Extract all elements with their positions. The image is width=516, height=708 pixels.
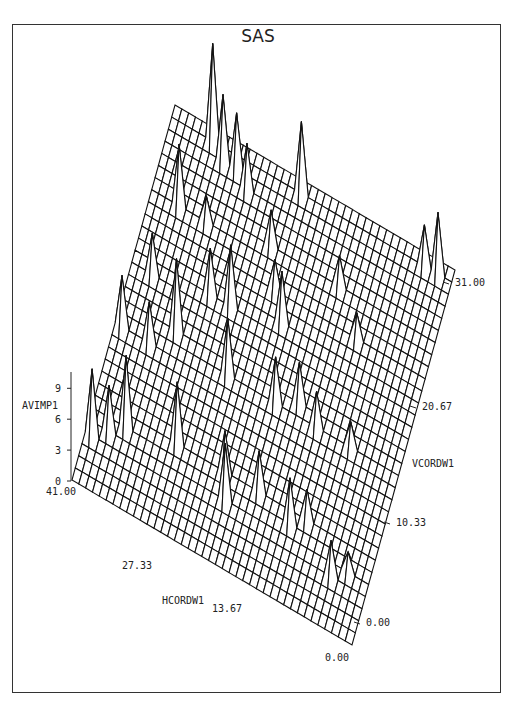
z-tick-label: 3	[55, 445, 61, 456]
z-tick-label: 6	[55, 414, 61, 425]
y-tick-label: 10.33	[396, 517, 426, 528]
surface-plot: 0369AVIMP141.0027.3313.670.00HCORDW10.00…	[0, 0, 516, 708]
x-tick-label: 27.33	[122, 560, 152, 571]
y-tick-label: 31.00	[455, 277, 485, 288]
y-tick-label: 20.67	[422, 401, 452, 412]
x-tick-label: 13.67	[212, 603, 242, 614]
z-tick-label: 9	[55, 383, 61, 394]
x-tick-label: 0.00	[325, 652, 349, 663]
y-axis-title: VCORDW1	[412, 458, 454, 469]
y-tick-label: 0.00	[366, 617, 390, 628]
x-tick-label: 41.00	[46, 486, 76, 497]
x-axis-title: HCORDW1	[162, 595, 204, 606]
z-axis-title: AVIMP1	[22, 400, 58, 411]
